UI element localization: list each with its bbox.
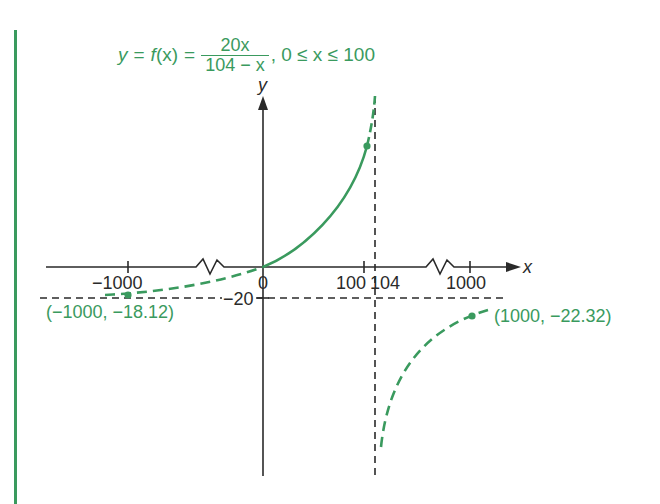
point-label-left: (−1000, −18.12) [46,303,174,321]
curve-right-branch [381,310,488,447]
function-graph [0,0,660,504]
point-label-right: (1000, −22.32) [494,307,612,325]
curve-upper-extension [367,96,375,146]
tick-label-neg1000: −1000 [92,274,143,292]
point-1000 [468,312,475,319]
x-axis-arrow-icon [506,262,521,272]
curve-domain [263,146,367,267]
x-axis-label: x [523,258,532,276]
tick-label-104: 104 [370,274,400,292]
y-axis-arrow-icon [258,96,268,110]
y-axis-label: y [258,76,267,94]
point-100 [363,142,370,149]
tick-label-neg20: −20 [222,290,255,308]
tick-label-100: 100 [336,274,366,292]
tick-label-1000: 1000 [446,274,486,292]
tick-label-0: 0 [258,274,268,292]
